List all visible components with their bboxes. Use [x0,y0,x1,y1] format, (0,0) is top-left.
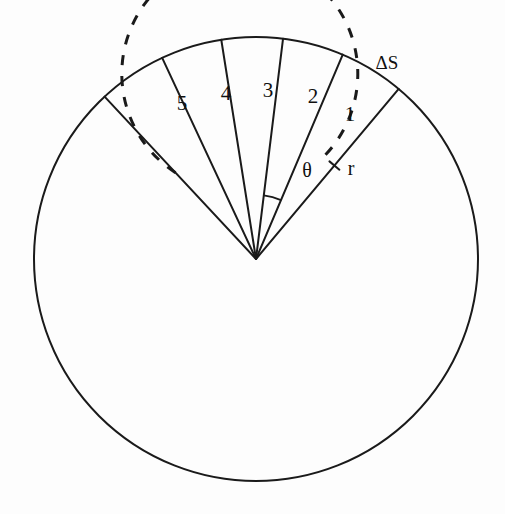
theta-label: θ [302,160,312,180]
geometry-layer [34,0,478,481]
figure-container: 12345ΔSθr [0,0,505,514]
delta-s-label: ΔS [376,53,399,72]
sector-label-1: 1 [345,104,356,125]
sector-ray-0 [256,89,399,259]
radius-label: r [348,158,355,178]
inner-dashed-circle [122,0,358,173]
sector-label-5: 5 [177,93,188,114]
sector-label-2: 2 [308,86,319,107]
sector-diagram-svg [0,0,505,514]
sector-ray-4 [162,58,256,259]
theta-angle-arc [264,195,281,200]
sector-label-4: 4 [221,83,232,104]
sector-label-3: 3 [263,80,274,101]
